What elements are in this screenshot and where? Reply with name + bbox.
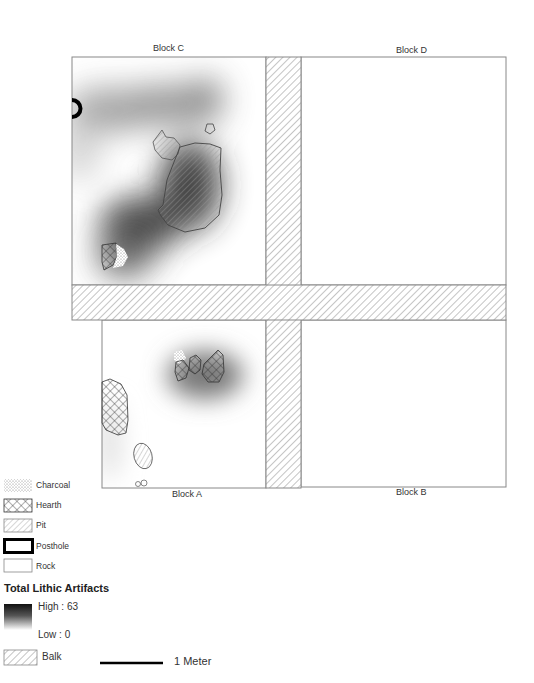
legend-label-rock: Rock — [36, 561, 55, 571]
legend-label-pit: Pit — [36, 520, 46, 530]
block-b-outline — [301, 320, 506, 487]
scale-label: 1 Meter — [174, 655, 211, 667]
legend-density-ramp — [4, 604, 32, 630]
site-map — [0, 0, 534, 683]
hearth-feature — [189, 355, 201, 374]
block-label-c: Block C — [153, 43, 184, 53]
block-d-outline — [301, 57, 506, 285]
legend-swatch-hearth — [4, 499, 32, 512]
legend-label-posthole: Posthole — [36, 541, 69, 551]
block-label-b: Block B — [396, 487, 427, 497]
block-label-a: Block A — [172, 489, 202, 499]
legend-low-label: Low : 0 — [38, 629, 70, 640]
block-label-d: Block D — [396, 45, 427, 55]
legend-label-hearth: Hearth — [36, 500, 62, 510]
legend-label-balk: Balk — [42, 651, 61, 662]
legend-swatch-charcoal — [4, 479, 32, 492]
legend-swatch-posthole — [5, 540, 33, 553]
legend-swatch-pit — [4, 519, 32, 532]
legend-swatch-rock — [4, 559, 32, 572]
legend-high-label: High : 63 — [38, 601, 78, 612]
legend-label-charcoal: Charcoal — [36, 480, 70, 490]
legend-density-title: Total Lithic Artifacts — [4, 582, 109, 594]
block-c-density — [60, 57, 266, 285]
legend-swatch-balk — [4, 650, 37, 665]
